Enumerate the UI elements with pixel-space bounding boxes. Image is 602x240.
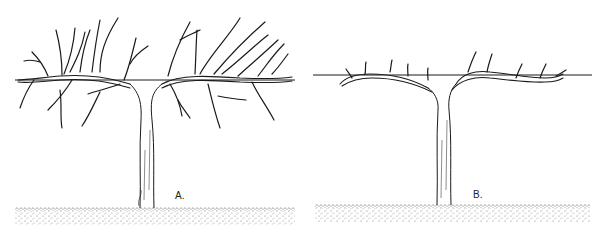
- label-a: A.: [175, 190, 184, 201]
- ground-b: [315, 204, 590, 222]
- canes-upper-a: [24, 18, 288, 80]
- spur: [365, 62, 366, 74]
- spur: [540, 64, 546, 78]
- spur: [390, 60, 392, 72]
- panel-b: B.: [313, 52, 592, 222]
- spur: [468, 52, 476, 72]
- canes-lower-a: [20, 80, 274, 128]
- spurs-b: [346, 52, 566, 80]
- spur: [346, 69, 352, 78]
- label-b: B.: [473, 189, 482, 200]
- vine-illustration: A.: [0, 0, 602, 240]
- trunk-b: [428, 84, 456, 205]
- spur: [487, 54, 492, 72]
- cordon-arms-a: [18, 75, 292, 88]
- ground-a: [15, 207, 295, 225]
- trunk-a: [130, 84, 162, 208]
- panel-a: A.: [15, 18, 295, 225]
